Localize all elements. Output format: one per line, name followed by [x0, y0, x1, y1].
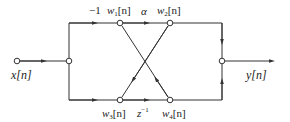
label-w1: w1[n] — [107, 4, 131, 18]
label-w3: w3[n] — [102, 107, 126, 121]
label-output: y[n] — [245, 68, 267, 82]
label-gain-minus1: −1 — [89, 4, 101, 16]
label-gain-z-inverse: z−1 — [136, 106, 149, 119]
label-gain-alpha: α — [141, 5, 147, 17]
node-w3 — [117, 97, 123, 103]
node-split — [66, 58, 72, 64]
label-w4: w4[n] — [162, 107, 186, 121]
node-w2 — [167, 20, 173, 26]
node-output — [219, 58, 225, 64]
node-w1 — [117, 20, 123, 26]
label-w2: w2[n] — [157, 4, 181, 18]
signal-flow-diagram: x[n] y[n] −1 α w1[n] w2[n] w3[n] w4[n] z… — [0, 0, 290, 122]
label-input: x[n] — [10, 68, 32, 82]
node-input — [14, 58, 20, 64]
node-w4 — [167, 97, 173, 103]
